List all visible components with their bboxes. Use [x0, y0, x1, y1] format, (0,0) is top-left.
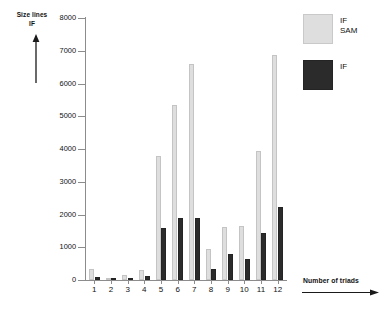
bar [211, 269, 216, 280]
x-axis-tick-label: 11 [254, 285, 268, 294]
x-axis-tick [211, 280, 212, 284]
bar [245, 259, 250, 280]
x-axis-tick [144, 280, 145, 284]
x-axis-tick [278, 280, 279, 284]
x-axis-tick-label: 9 [221, 285, 235, 294]
y-axis-tick-label: 4000 [46, 144, 76, 153]
x-axis-tick [194, 280, 195, 284]
legend-label: IFSAM [340, 16, 357, 36]
legend-label: IF [340, 62, 347, 72]
y-axis-tick-label: 1000 [46, 242, 76, 251]
y-axis-tick [78, 51, 85, 52]
x-axis-tick-label: 7 [187, 285, 201, 294]
x-axis-tick [161, 280, 162, 284]
x-axis-tick-label: 10 [237, 285, 251, 294]
x-axis-tick-label: 1 [87, 285, 101, 294]
bar [128, 278, 133, 280]
legend-swatch-sam [303, 14, 333, 44]
bar [111, 278, 116, 280]
y-axis-tick-label: 2000 [46, 210, 76, 219]
legend-label-line2: SAM [340, 26, 357, 35]
x-axis-tick-label: 12 [271, 285, 285, 294]
legend-label-line1: IF [340, 62, 347, 71]
bar [195, 218, 200, 280]
bar [161, 228, 166, 280]
y-axis-tick-labels: 800070006000500040003000200010000 [42, 0, 76, 309]
x-axis-tick-label: 6 [171, 285, 185, 294]
x-axis-tick [128, 280, 129, 284]
y-axis-tick-label: 8000 [46, 13, 76, 22]
x-axis-tick [244, 280, 245, 284]
x-axis-tick [111, 280, 112, 284]
y-axis-tick-label: 5000 [46, 111, 76, 120]
x-axis-tick [228, 280, 229, 284]
bar [278, 207, 283, 280]
bar [206, 249, 211, 280]
y-axis-tick-label: 6000 [46, 79, 76, 88]
x-axis-tick-label: 4 [137, 285, 151, 294]
y-axis-tick [78, 182, 85, 183]
bar [178, 218, 183, 280]
bar-chart-figure: Size lines IF 80007000600050004000300020… [0, 0, 384, 309]
x-axis-tick-label: 8 [204, 285, 218, 294]
chart-legend: IFSAMIF [303, 14, 383, 106]
bar [172, 105, 177, 280]
bar [106, 278, 111, 280]
bar [256, 151, 261, 280]
y-axis-tick [78, 116, 85, 117]
arrow-up-icon [31, 33, 41, 83]
bar [272, 55, 277, 280]
x-axis-label: Number of triads [303, 277, 359, 284]
y-axis-tick [78, 280, 85, 281]
y-axis-tick [78, 247, 85, 248]
bar [261, 233, 266, 280]
y-axis-label-line2: IF [29, 20, 35, 27]
y-axis-tick-label: 7000 [46, 46, 76, 55]
y-axis-tick [78, 18, 85, 19]
legend-item: IFSAM [303, 14, 383, 48]
y-axis-tick-label: 3000 [46, 177, 76, 186]
x-axis-line [85, 280, 287, 281]
x-axis-tick [94, 280, 95, 284]
bar [89, 269, 94, 280]
x-axis-tick [178, 280, 179, 284]
bar [139, 270, 144, 280]
x-axis-tick-label: 3 [121, 285, 135, 294]
bar [228, 254, 233, 280]
x-axis-tick-label: 5 [154, 285, 168, 294]
bar [189, 64, 194, 280]
legend-item: IF [303, 60, 383, 94]
bar-series-group [86, 18, 286, 280]
bar [145, 276, 150, 280]
y-axis-tick [78, 84, 85, 85]
y-axis-tick [78, 215, 85, 216]
legend-label-line1: IF [340, 16, 347, 25]
y-axis-tick [78, 149, 85, 150]
y-axis-tick-label: 0 [46, 275, 76, 284]
bar [239, 226, 244, 280]
bar [222, 227, 227, 280]
x-axis-tick-label: 2 [104, 285, 118, 294]
bar [95, 277, 100, 280]
arrow-right-icon [302, 288, 380, 297]
x-axis-tick [261, 280, 262, 284]
bar [156, 156, 161, 280]
bar [122, 275, 127, 280]
legend-swatch-if [303, 60, 333, 90]
